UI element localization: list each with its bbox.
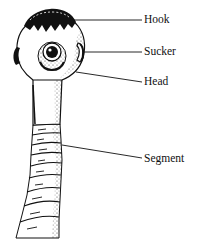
head — [13, 9, 84, 80]
label-hook: Hook — [144, 14, 170, 26]
label-segment: Segment — [144, 153, 184, 165]
segmented-body — [16, 124, 62, 238]
tapeworm-illustration — [0, 0, 200, 246]
head-leader — [76, 72, 142, 82]
diagram-canvas: Hook Sucker Head Segment — [0, 0, 200, 246]
neck — [33, 78, 62, 125]
sucker — [38, 42, 66, 70]
segment-leader — [62, 145, 142, 158]
label-head: Head — [144, 76, 168, 88]
label-sucker: Sucker — [144, 46, 176, 58]
